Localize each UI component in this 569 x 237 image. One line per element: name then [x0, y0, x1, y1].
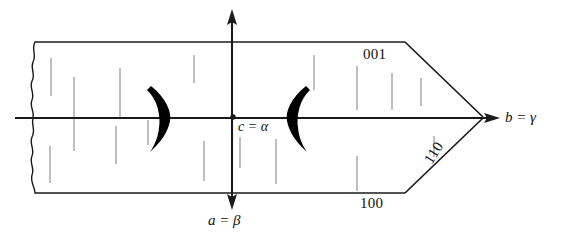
axis-label-a-beta: a = β [208, 213, 241, 228]
axis-label-b-gamma: b = γ [505, 110, 536, 125]
vertical-axis [227, 9, 237, 210]
crystal-face-110-edge [405, 118, 483, 193]
optic-centre-dot [230, 114, 235, 119]
diagram-canvas [0, 0, 569, 237]
face-index-100: 100 [360, 196, 383, 211]
origin-label-c-alpha: c = α [238, 120, 268, 134]
face-index-001: 001 [363, 47, 386, 62]
crystal-diagram-figure: b = γ a = β c = α 001 110 100 [0, 0, 569, 237]
crystal-face-001-edge [405, 42, 483, 117]
